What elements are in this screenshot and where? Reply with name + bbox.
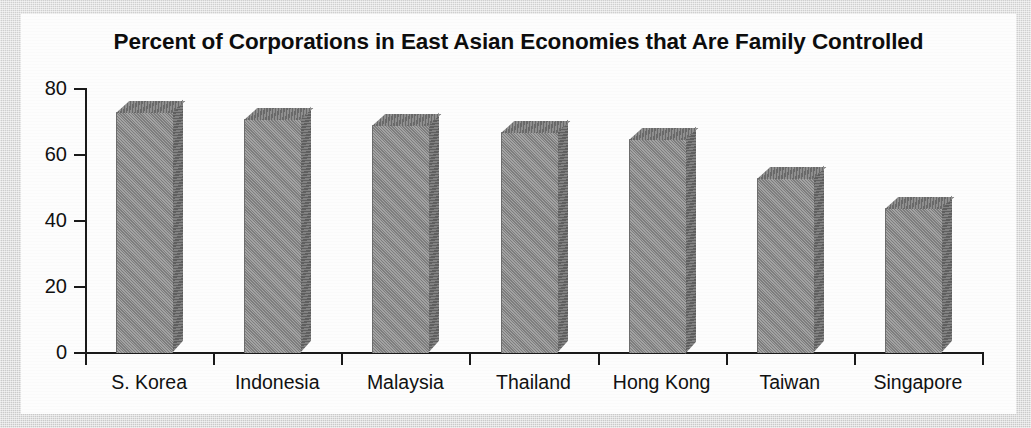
y-tick-mark (74, 154, 86, 156)
x-tick-label: Hong Kong (598, 371, 726, 394)
y-tick-label: 40 (7, 209, 67, 232)
x-tick-mark (726, 352, 728, 365)
x-tick-label: Singapore (854, 371, 982, 394)
bar (501, 121, 557, 353)
bar-front-face (372, 125, 429, 353)
bar-front-face (885, 208, 942, 353)
x-tick-mark (341, 352, 343, 365)
y-tick-mark (74, 286, 86, 288)
bar-side-face (428, 113, 439, 353)
bar (629, 128, 685, 354)
y-tick-label: 80 (7, 77, 67, 100)
bar-side-face (941, 196, 952, 353)
x-tick-mark (85, 352, 87, 365)
y-tick-mark (74, 88, 86, 90)
bar (116, 101, 172, 353)
y-tick-label: 60 (7, 143, 67, 166)
x-tick-mark (213, 352, 215, 365)
x-tick-label: Taiwan (726, 371, 854, 394)
bar-front-face (116, 112, 173, 353)
bar-top-face (629, 128, 698, 140)
x-tick-mark (469, 352, 471, 365)
bar-front-face (629, 139, 686, 354)
x-tick-mark (598, 352, 600, 365)
x-tick-mark (982, 352, 984, 365)
bar-side-face (300, 106, 311, 353)
bar-side-face (685, 126, 696, 353)
bar (757, 167, 813, 353)
x-tick-label: S. Korea (85, 371, 213, 394)
x-tick-label: Indonesia (213, 371, 341, 394)
bar (885, 197, 941, 353)
y-tick-label: 0 (7, 341, 67, 364)
bar-side-face (172, 100, 183, 353)
bar-front-face (501, 132, 558, 353)
chart-panel: Percent of Corporations in East Asian Ec… (22, 15, 1015, 413)
chart-screenshot: Percent of Corporations in East Asian Ec… (0, 0, 1031, 428)
bar (372, 114, 428, 353)
x-tick-label: Thailand (469, 371, 597, 394)
x-tick-mark (854, 352, 856, 365)
plot-area: 020406080 S. KoreaIndonesiaMalaysiaThail… (22, 15, 1015, 413)
y-tick-mark (74, 220, 86, 222)
bar-front-face (244, 119, 301, 353)
bar-side-face (813, 166, 824, 353)
y-tick-label: 20 (7, 275, 67, 298)
x-tick-label: Malaysia (341, 371, 469, 394)
bar-front-face (757, 178, 814, 353)
bar (244, 108, 300, 353)
bar-side-face (557, 120, 568, 353)
